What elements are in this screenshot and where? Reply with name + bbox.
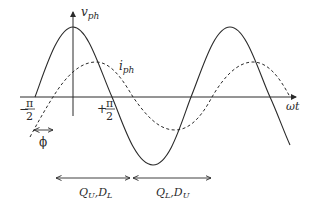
svg-text:π: π <box>106 97 113 110</box>
svg-text:π: π <box>26 97 33 110</box>
current-curve <box>30 62 290 137</box>
waveform-diagram: vph iph ωt − π 2 + π 2 ϕ QU,DL QL,DU <box>0 0 312 207</box>
y-axis-label: vph <box>81 5 99 21</box>
current-label: iph <box>119 59 134 75</box>
tick-minus-half-pi: − π 2 <box>19 97 35 123</box>
x-axis-label: ωt <box>286 100 300 113</box>
interval-label-1: QU,DL <box>79 186 112 200</box>
tick-plus-half-pi: + π 2 <box>97 97 115 123</box>
svg-text:2: 2 <box>106 110 113 123</box>
phase-shift-label: ϕ <box>39 135 47 149</box>
svg-text:2: 2 <box>26 110 33 123</box>
interval-label-2: QL,DU <box>156 186 190 200</box>
